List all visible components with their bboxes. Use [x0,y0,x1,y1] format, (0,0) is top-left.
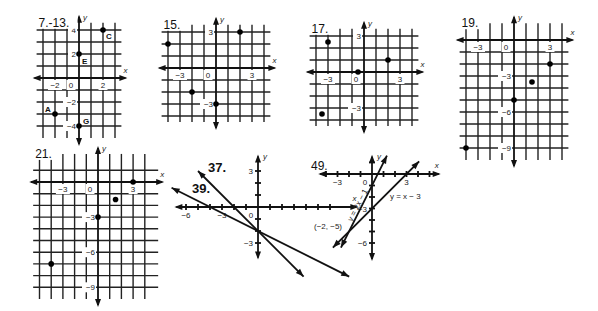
x-tick-label: 3 [250,71,255,80]
x-tick-label: −2 [50,81,60,90]
y-axis-arrow-down-icon [361,126,367,134]
x-axis-arrow-left-icon [306,69,314,75]
x-axis-arrow-left-icon [174,204,182,210]
plotted-point [52,111,58,117]
x-tick-label: −3 [333,178,343,187]
y-axis-arrow-down-icon [255,251,261,259]
x-tick-label: 3 [404,178,409,187]
x-axis-label: x [569,28,575,37]
y-axis-label: y [82,13,88,22]
plotted-point [76,123,82,129]
point-label: E [82,57,88,66]
x-tick-label: 3 [548,43,553,52]
y-tick-label: −4 [67,122,77,131]
x-tick-label: 3 [131,185,136,194]
problem-number: 19. [462,16,479,30]
point-label: A [45,105,51,114]
y-axis-arrow-down-icon [95,299,101,307]
graph-g15: xy−333−3015. [158,15,278,130]
y-tick-label: −3 [244,239,254,248]
plotted-point [237,29,243,35]
x-axis-label: x [122,66,128,75]
y-tick-label: 2 [72,50,77,59]
y-tick-label: −3 [502,72,512,81]
origin-label: 0 [363,178,368,187]
y-tick-label: −2 [67,98,77,107]
y-tick-label: 3 [209,28,214,37]
plotted-point [76,51,82,57]
y-axis-arrow-up-icon [511,15,517,23]
graphed-line-37 [198,171,304,277]
problem-number: 39. [192,181,210,196]
y-tick-label: 3 [249,167,254,176]
x-tick-label: −6 [181,211,191,220]
problem-number: 49. [311,159,328,173]
y-tick-label: −3 [86,213,96,222]
plotted-point [48,261,54,267]
y-tick-label: −9 [502,144,512,153]
plotted-point [213,101,219,107]
origin-label: 0 [88,185,93,194]
x-tick-label: 3 [398,75,403,84]
origin-label: 0 [69,81,74,90]
plotted-point [165,41,171,47]
x-axis-label: x [434,161,440,170]
y-tick-label: −6 [358,239,368,248]
line-arrow-icon [172,188,180,194]
point-label: G [83,117,89,126]
y-axis-label: y [517,13,523,22]
x-tick-label: −3 [323,75,333,84]
y-tick-label: −3 [352,104,362,113]
plotted-point [100,27,106,33]
plotted-point [511,97,517,103]
y-axis-label: y [101,144,107,153]
plotted-point [355,69,361,75]
grid-lines [33,154,158,299]
line-arrow-icon [341,239,347,247]
origin-label: 0 [249,211,254,220]
y-tick-label: −9 [86,283,96,292]
x-tick-label: 2 [101,81,106,90]
y-axis-arrow-down-icon [213,122,219,130]
y-tick-label: −6 [86,248,96,257]
x-axis-label: x [419,60,425,69]
x-axis-arrow-left-icon [456,37,464,43]
x-axis-arrow-right-icon [119,75,127,81]
plotted-point [113,197,119,203]
y-axis-arrow-up-icon [361,21,367,29]
x-axis-label: x [159,170,165,179]
x-axis-arrow-left-icon [158,65,166,71]
x-axis-arrow-right-icon [566,37,574,43]
x-axis-arrow-right-icon [156,179,164,185]
y-axis-label: y [376,152,382,161]
graph-g21: xy−33−3−6−9021. [29,144,165,307]
point-label: C [106,32,112,41]
graph-g19: xy−33−3−6−9019. [456,13,576,168]
plotted-point [385,57,391,63]
plotted-point [463,145,469,151]
y-tick-label: −3 [204,100,214,109]
origin-label: 0 [206,71,211,80]
x-axis-arrow-left-icon [33,75,41,81]
origin-label: 0 [354,75,359,84]
y-axis-arrow-up-icon [213,17,219,25]
problem-number: 15. [164,18,181,32]
problem-number: 17. [312,22,329,36]
y-axis-arrow-up-icon [95,146,101,154]
plotted-point [529,79,535,85]
x-tick-label: −3 [175,71,185,80]
y-axis-arrow-down-icon [511,160,517,168]
plotted-point [325,39,331,45]
y-axis-label: y [367,19,373,28]
x-axis-arrow-right-icon [268,65,276,71]
equation-label: (−2, −5) [314,222,342,231]
graph-sheet: xy−2242−2−407.-13.CEAGxy−333−3015.xy−333… [0,0,598,311]
x-axis-arrow-left-icon [29,179,37,185]
equation-label: y = x − 3 [390,192,421,201]
y-axis-arrow-up-icon [369,155,375,163]
y-tick-label: 3 [357,32,362,41]
plotted-point [130,179,136,185]
plotted-point [547,61,553,67]
graphed-line-39 [172,188,350,277]
y-axis-label: y [262,152,268,161]
